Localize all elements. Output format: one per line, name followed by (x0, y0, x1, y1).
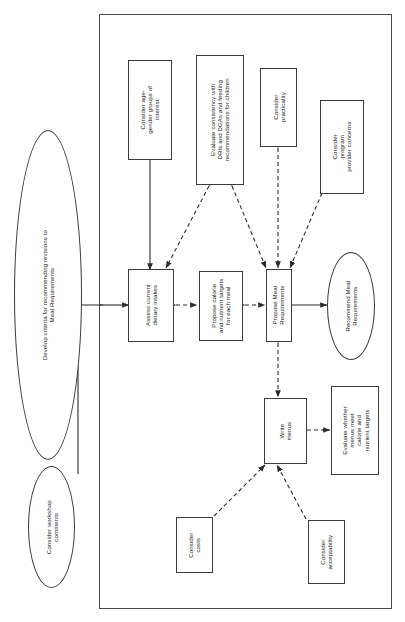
node-consider-practicality-label: Consider practicality (271, 93, 285, 123)
node-propose-calorie-nutrient-targets-label: Propose calorie and nutrient targets for… (210, 279, 232, 334)
node-consider-acceptability[interactable]: Consider acceptability (308, 520, 345, 584)
node-propose-meal-requirements-label: Propose Meal Requirements (272, 286, 286, 325)
node-consider-program-provider-concerns-label: Consider program provider concerns (331, 122, 353, 172)
node-write-menus[interactable]: Write menus (264, 398, 307, 464)
node-consider-practicality[interactable]: Consider practicality (260, 68, 297, 147)
node-consider-workshop-comments-label: Consider workshop comments (44, 500, 58, 554)
node-propose-meal-requirements[interactable]: Propose Meal Requirements (266, 269, 292, 342)
node-recommend-meal-requirements[interactable]: Recommend Meal Requirements (327, 252, 375, 360)
node-consider-age-gender-groups[interactable]: Consider age- gender groups of interest (128, 60, 172, 160)
node-assess-current-dietary-intakes-label: Assess current dietary intakes (144, 285, 158, 327)
node-consider-costs-label: Consider costs (187, 532, 201, 557)
node-consider-workshop-comments[interactable]: Consider workshop comments (28, 466, 75, 588)
node-consider-costs[interactable]: Consider costs (176, 517, 213, 573)
node-evaluate-consistency[interactable]: Evaluate consistency with DRIs and DGAs … (196, 55, 244, 185)
edge-acceptability-to-writemenus (277, 465, 306, 519)
node-assess-current-dietary-intakes[interactable]: Assess current dietary intakes (128, 269, 174, 342)
node-consider-program-provider-concerns[interactable]: Consider program provider concerns (320, 100, 364, 194)
node-evaluate-menus-meet-targets-label: Evaluate whether menus meet calorie and … (341, 406, 370, 455)
node-evaluate-menus-meet-targets[interactable]: Evaluate whether menus meet calorie and … (331, 386, 379, 475)
node-write-menus-label: Write menus (278, 422, 292, 441)
edge-consistency-to-assess (166, 186, 209, 268)
edge-consistency-to-proposal (232, 186, 266, 268)
node-develop-criteria-label: Develop criteria for recommending revisi… (41, 230, 55, 360)
node-propose-calorie-nutrient-targets[interactable]: Propose calorie and nutrient targets for… (199, 271, 243, 341)
edge-provider-to-proposal (290, 193, 322, 268)
node-evaluate-consistency-label: Evaluate consistency with DRIs and DGAs … (209, 78, 231, 161)
node-consider-age-gender-groups-label: Consider age- gender groups of interest (139, 86, 161, 134)
node-consider-acceptability-label: Consider acceptability (319, 535, 333, 570)
node-develop-criteria[interactable]: Develop criteria for recommending revisi… (14, 130, 82, 460)
edge-costs-to-writemenus (214, 465, 265, 516)
node-recommend-meal-requirements-label: Recommend Meal Requirements (344, 281, 358, 332)
diagram-canvas: Develop criteria for recommending revisi… (0, 0, 405, 622)
